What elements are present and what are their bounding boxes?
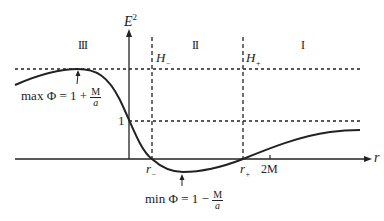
max-annotation: max Φ = 1 + Ma xyxy=(21,87,101,108)
region-iii-label: III xyxy=(78,38,87,53)
r-plus-label: r+ xyxy=(240,161,250,179)
potential-curve xyxy=(15,69,360,172)
r-axis-label: r xyxy=(374,150,379,166)
region-ii-label: II xyxy=(192,38,198,53)
region-i-label: I xyxy=(301,38,305,53)
min-annotation: min Φ = 1 − Ma xyxy=(145,190,223,211)
inner-horizon-label: H− xyxy=(156,50,171,68)
e2-axis-arrow-icon xyxy=(126,29,132,37)
max-pointer-arrow-icon xyxy=(76,70,81,76)
outer-horizon-label: H+ xyxy=(246,50,261,68)
min-pointer-arrow-icon xyxy=(180,174,185,180)
r-minus-label: r− xyxy=(146,161,156,179)
two-m-label: 2M xyxy=(261,162,278,177)
r-axis-arrow-icon xyxy=(364,156,372,162)
potential-diagram xyxy=(0,0,384,221)
e2-axis-label: E2 xyxy=(124,12,137,30)
y-one-label: 1 xyxy=(118,113,125,129)
